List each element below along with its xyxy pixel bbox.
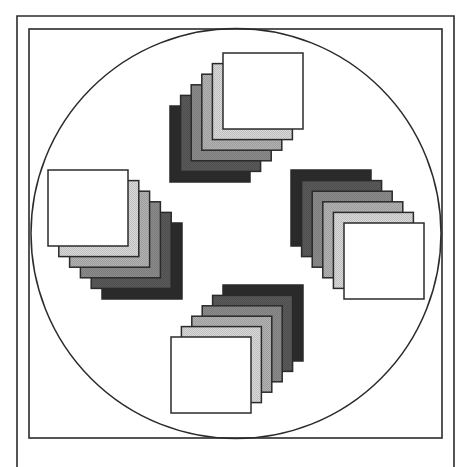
- square-clusters: [48, 53, 424, 413]
- pinwheel-figure: [0, 0, 468, 467]
- square-white: [171, 337, 251, 413]
- square-white: [344, 223, 424, 299]
- left-cluster: [48, 170, 182, 299]
- figure-svg: [0, 0, 468, 467]
- square-white: [223, 53, 303, 129]
- bottom-cluster: [171, 285, 303, 413]
- square-white: [48, 170, 128, 246]
- top-cluster: [170, 53, 303, 182]
- right-cluster: [291, 170, 424, 299]
